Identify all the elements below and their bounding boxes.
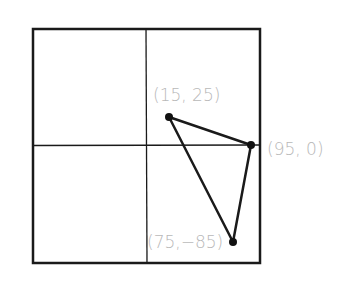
label-vertex-c: (75,−85) — [147, 232, 223, 252]
label-vertex-b: (95, 0) — [267, 139, 324, 159]
vertex-b — [247, 141, 255, 149]
y-axis — [146, 29, 147, 263]
x-axis — [33, 145, 260, 146]
coordinate-diagram: (15, 25) (95, 0) (75,−85) — [0, 0, 340, 281]
vertex-c — [229, 238, 237, 246]
triangle — [169, 117, 251, 242]
vertex-a — [165, 113, 173, 121]
label-vertex-a: (15, 25) — [153, 85, 220, 105]
